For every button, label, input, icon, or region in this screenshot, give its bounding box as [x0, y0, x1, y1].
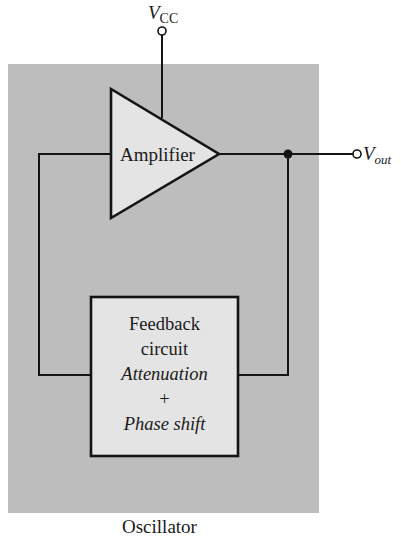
amplifier-label: Amplifier — [120, 145, 195, 164]
vout-terminal-icon — [353, 150, 361, 158]
feedback-line-2: circuit — [91, 337, 238, 362]
diagram-caption: Oscillator — [122, 517, 242, 536]
vcc-subscript: CC — [160, 11, 179, 26]
feedback-line-1: Feedback — [91, 312, 238, 337]
vcc-symbol: V — [148, 2, 160, 23]
vout-symbol: V — [363, 143, 375, 164]
vcc-label: VCC — [148, 3, 178, 22]
feedback-line-5: Phase shift — [91, 412, 238, 437]
feedback-circuit-text: Feedback circuit Attenuation + Phase shi… — [91, 312, 238, 437]
feedback-line-3: Attenuation — [91, 362, 238, 387]
vout-label: Vout — [363, 144, 391, 163]
vcc-terminal-icon — [158, 27, 166, 35]
feedback-line-4: + — [91, 387, 238, 412]
vout-subscript: out — [375, 152, 392, 167]
